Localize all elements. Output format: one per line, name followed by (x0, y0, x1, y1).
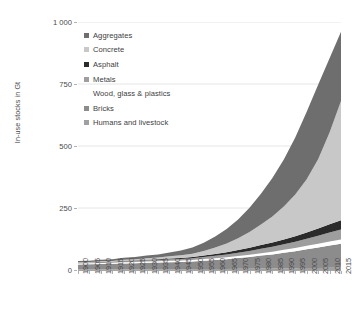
legend-item[interactable]: Aggregates (84, 28, 234, 43)
x-tick-mark (112, 271, 113, 274)
legend-item[interactable]: Metals (84, 72, 234, 87)
x-tick-mark (78, 271, 79, 274)
legend-item-label: Concrete (93, 45, 124, 54)
y-tick-mark (74, 84, 77, 85)
legend-swatch-icon (84, 33, 89, 38)
x-tick-mark (101, 271, 102, 274)
legend-swatch-icon (84, 62, 89, 67)
legend-item[interactable]: Wood, glass & plastics (84, 86, 234, 101)
x-tick-mark (318, 271, 319, 274)
legend-item-label: Asphalt (93, 60, 119, 69)
x-tick-mark (250, 271, 251, 274)
y-axis-tick-labels: 02505007501 000 (28, 0, 72, 311)
legend-swatch-icon (84, 77, 89, 82)
x-tick-mark (272, 271, 273, 274)
x-tick-mark (181, 271, 182, 274)
x-tick-mark (204, 271, 205, 274)
legend-swatch-icon (84, 91, 89, 96)
y-tick-mark (74, 208, 77, 209)
x-tick-mark (261, 271, 262, 274)
x-axis-tick-labels: 1900190519101915192019251930193519401945… (78, 272, 341, 311)
x-tick-label: 2015 (344, 258, 353, 274)
legend-swatch-icon (84, 47, 89, 52)
x-tick-mark (307, 271, 308, 274)
x-tick-mark (284, 271, 285, 274)
x-tick-mark (238, 271, 239, 274)
chart-legend: AggregatesConcreteAsphaltMetalsWood, gla… (84, 28, 234, 130)
x-tick-mark (215, 271, 216, 274)
x-tick-mark (89, 271, 90, 274)
legend-item-label: Humans and livestock (93, 118, 168, 127)
in-use-stocks-area-chart: In-use stocks in Gt 02505007501 000 1900… (0, 0, 357, 311)
legend-swatch-icon (84, 106, 89, 111)
x-tick-mark (158, 271, 159, 274)
y-axis-title: In-use stocks in Gt (13, 58, 22, 168)
x-tick-mark (330, 271, 331, 274)
y-tick-label: 250 (28, 204, 72, 213)
x-tick-mark (124, 271, 125, 274)
x-tick-mark (192, 271, 193, 274)
y-tick-label: 0 (28, 266, 72, 275)
legend-item[interactable]: Asphalt (84, 57, 234, 72)
legend-item-label: Bricks (93, 104, 114, 113)
y-tick-mark (74, 270, 77, 271)
x-tick-mark (295, 271, 296, 274)
x-tick-mark (341, 271, 342, 274)
legend-item-label: Wood, glass & plastics (93, 89, 170, 98)
legend-swatch-icon (84, 120, 89, 125)
y-tick-mark (74, 22, 77, 23)
y-tick-label: 750 (28, 80, 72, 89)
y-tick-label: 1 000 (28, 18, 72, 27)
y-tick-label: 500 (28, 142, 72, 151)
legend-item-label: Aggregates (93, 31, 132, 40)
x-tick-mark (147, 271, 148, 274)
x-tick-mark (169, 271, 170, 274)
legend-item[interactable]: Concrete (84, 43, 234, 58)
x-tick-mark (135, 271, 136, 274)
legend-item[interactable]: Humans and livestock (84, 116, 234, 131)
legend-item-label: Metals (93, 75, 116, 84)
y-tick-mark (74, 146, 77, 147)
x-tick-mark (227, 271, 228, 274)
legend-item[interactable]: Bricks (84, 101, 234, 116)
